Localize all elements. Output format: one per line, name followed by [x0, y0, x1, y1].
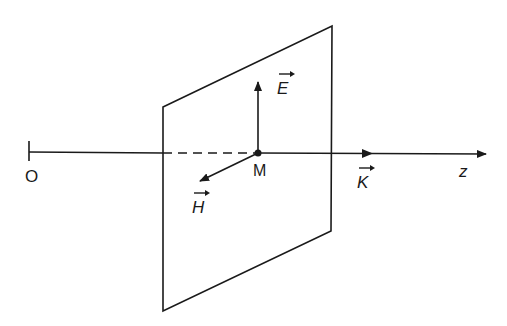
h-field-text: H	[192, 198, 204, 217]
vector-arrow-icon	[279, 71, 295, 77]
wave-vector-text: K	[357, 173, 368, 192]
label-wave-vector: K	[357, 174, 368, 191]
h-field-vector	[200, 153, 258, 181]
label-point-m: M	[253, 163, 266, 179]
label-z-axis: z	[459, 163, 468, 180]
k-vector-arrowhead	[362, 149, 373, 158]
label-e-field: E	[277, 80, 288, 97]
point-m	[255, 150, 262, 157]
vector-arrow-icon	[359, 165, 375, 171]
diagram-canvas: O M z E H K	[0, 0, 507, 326]
z-axis-front	[29, 152, 163, 153]
label-origin: O	[25, 168, 38, 185]
label-h-field: H	[192, 199, 204, 216]
e-field-text: E	[277, 79, 288, 98]
wave-plane	[163, 26, 332, 311]
vector-arrow-icon	[194, 190, 210, 196]
